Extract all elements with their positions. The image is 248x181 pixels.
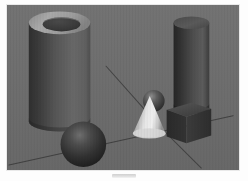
page-root — [0, 0, 248, 181]
render-frame — [6, 4, 240, 171]
caption-mark — [112, 174, 136, 178]
scene-canvas — [7, 5, 239, 170]
grain-overlay — [7, 5, 239, 170]
